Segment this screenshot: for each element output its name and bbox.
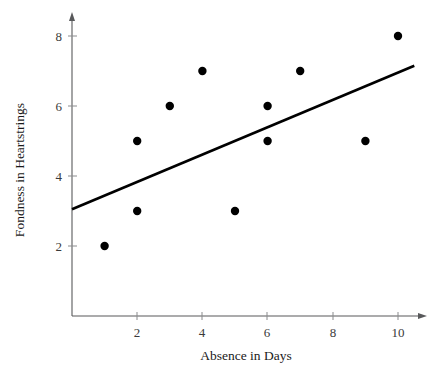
data-point (133, 137, 141, 145)
x-axis-title: Absence in Days (200, 348, 291, 363)
axes-group (69, 12, 427, 319)
data-point (296, 67, 304, 75)
y-axis-title: Fondness in Heartstrings (12, 103, 27, 237)
data-points-group (100, 32, 402, 250)
y-tick-label: 8 (56, 29, 63, 44)
data-point (263, 102, 271, 110)
y-tick-label: 6 (56, 99, 63, 114)
y-axis-arrowhead (69, 12, 75, 21)
x-axis-arrowhead (418, 313, 427, 319)
data-point (198, 67, 206, 75)
data-point (263, 137, 271, 145)
data-point (166, 102, 174, 110)
chart-canvas: 2 4 6 8 10 2 4 6 8 Absence in Days Fondn… (0, 0, 438, 372)
data-point (100, 242, 108, 250)
x-tick-label: 6 (264, 325, 271, 340)
y-tick-label: 2 (56, 239, 63, 254)
regression-trend-line (72, 66, 414, 210)
x-tick-label: 2 (134, 325, 141, 340)
data-point (231, 207, 239, 215)
data-point (133, 207, 141, 215)
data-point (394, 32, 402, 40)
scatter-chart: 2 4 6 8 10 2 4 6 8 Absence in Days Fondn… (0, 0, 438, 372)
x-tick-label: 4 (199, 325, 206, 340)
data-point (361, 137, 369, 145)
y-tick-group: 2 4 6 8 (56, 29, 78, 254)
y-tick-label: 4 (56, 169, 63, 184)
x-tick-label: 10 (392, 325, 405, 340)
x-tick-label: 8 (330, 325, 337, 340)
